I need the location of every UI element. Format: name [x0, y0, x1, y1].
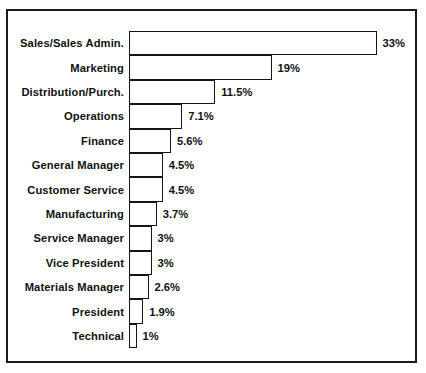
bar-category-label: Finance	[81, 135, 124, 147]
chart-frame: Sales/Sales Admin.33%Marketing19%Distrib…	[6, 9, 417, 363]
bar-value-label: 7.1%	[188, 110, 214, 122]
bar-value-label: 4.5%	[169, 159, 195, 171]
bar-value-label: 33%	[383, 37, 405, 49]
bar-category-label: Marketing	[70, 62, 124, 74]
bar-shape	[129, 324, 137, 348]
bar-category-label: President	[72, 306, 124, 318]
bar-category-label: Technical	[72, 330, 124, 342]
bar-row: Technical1%	[8, 324, 415, 348]
bar-value-label: 3.7%	[163, 208, 189, 220]
bar-chart-plot-area: Sales/Sales Admin.33%Marketing19%Distrib…	[8, 11, 415, 361]
bar-shape	[129, 153, 163, 177]
bar-value-label: 11.5%	[221, 86, 252, 98]
bar-value-label: 4.5%	[169, 184, 195, 196]
bar-value-label: 5.6%	[177, 135, 203, 147]
bar-category-label: Service Manager	[34, 232, 124, 244]
bar-value-label: 1.9%	[149, 306, 175, 318]
bar-category-label: Sales/Sales Admin.	[20, 37, 124, 49]
bar-row: Service Manager3%	[8, 226, 415, 250]
bar-category-label: Operations	[64, 110, 124, 122]
bar-shape	[129, 226, 152, 250]
bar-category-label: General Manager	[32, 159, 124, 171]
bar-shape	[129, 202, 157, 226]
bar-category-label: Customer Service	[27, 184, 124, 196]
bar-value-label: 2.6%	[155, 281, 181, 293]
bar-value-label: 3%	[158, 232, 174, 244]
bar-row: General Manager4.5%	[8, 153, 415, 177]
bar-row: Manufacturing3.7%	[8, 202, 415, 226]
bar-shape	[129, 251, 152, 275]
bar-row: Vice President3%	[8, 251, 415, 275]
bar-category-label: Distribution/Purch.	[21, 86, 124, 98]
bar-value-label: 1%	[143, 330, 159, 342]
bar-row: President1.9%	[8, 299, 415, 323]
bar-category-label: Vice President	[46, 257, 124, 269]
bar-shape	[129, 104, 182, 128]
bar-row: Materials Manager2.6%	[8, 275, 415, 299]
bar-shape	[129, 275, 149, 299]
bar-shape	[129, 55, 272, 79]
bar-value-label: 19%	[278, 62, 300, 74]
bar-category-label: Materials Manager	[25, 281, 124, 293]
bar-row: Operations7.1%	[8, 104, 415, 128]
bar-row: Distribution/Purch.11.5%	[8, 80, 415, 104]
bar-row: Customer Service4.5%	[8, 177, 415, 201]
bar-row: Finance5.6%	[8, 129, 415, 153]
bar-row: Sales/Sales Admin.33%	[8, 31, 415, 55]
bar-shape	[129, 177, 163, 201]
bar-shape	[129, 299, 143, 323]
bar-shape	[129, 31, 377, 55]
bar-category-label: Manufacturing	[46, 208, 124, 220]
bar-row: Marketing19%	[8, 55, 415, 79]
bar-shape	[129, 80, 215, 104]
bar-value-label: 3%	[158, 257, 174, 269]
bar-shape	[129, 129, 171, 153]
